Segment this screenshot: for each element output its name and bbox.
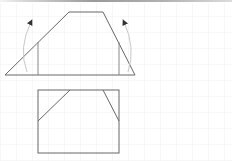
diagram-canvas [0,0,232,161]
grid-background [0,3,232,161]
